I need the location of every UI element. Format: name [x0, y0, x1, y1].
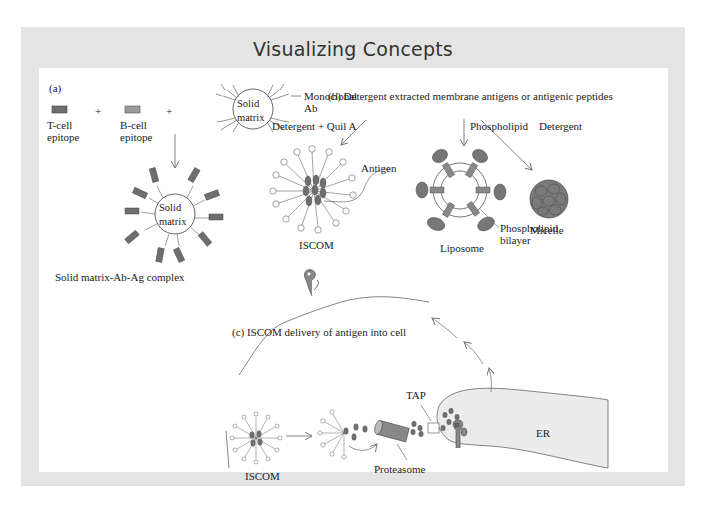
label-line: Solid	[237, 97, 264, 111]
complex-matrix-label: Solid matrix	[159, 201, 186, 229]
mhc-surface-icon	[304, 270, 318, 296]
label-line: Ab	[304, 102, 357, 114]
iscom-icon	[270, 146, 356, 233]
label-line: T-cell	[47, 119, 79, 131]
solid-matrix-label: Solid matrix	[237, 97, 264, 125]
micelle-icon	[530, 180, 568, 218]
iscom-label: ISCOM	[299, 239, 334, 251]
b-cell-epitope-label: B-cell epitope	[120, 119, 152, 143]
label-line: Solid	[159, 201, 186, 215]
plus-sign: +	[166, 105, 172, 117]
label-line: epitope	[120, 131, 152, 143]
antigen-label: Antigen	[361, 162, 396, 174]
detergent-arrow-label: Detergent	[539, 120, 582, 132]
iscom-small-icon	[230, 412, 282, 464]
figure-panel: (a) T-cell epitope + B-cell epitope + So…	[39, 68, 668, 472]
plus-sign: +	[95, 105, 101, 117]
tap-label: TAP	[406, 389, 426, 401]
panel-b-label: (b) Detergent extracted membrane antigen…	[328, 90, 613, 102]
liposome-icon	[416, 147, 506, 234]
label-line: epitope	[47, 131, 79, 143]
proteasome-label: Proteasome	[374, 463, 425, 475]
b-cell-epitope-icon	[125, 106, 140, 113]
figure-title: Visualizing Concepts	[21, 38, 685, 60]
detergent-quil-a-label: Detergent + Quil A	[272, 120, 357, 132]
fusing-iscom-icon	[318, 410, 368, 459]
panel-c-label: (c) ISCOM delivery of antigen into cell	[232, 326, 406, 338]
tap-transporter-icon	[428, 423, 439, 433]
micelle-label: Micelle	[530, 224, 564, 236]
t-cell-epitope-icon	[52, 106, 67, 113]
iscom-c-label: ISCOM	[245, 470, 280, 482]
er-label: ER	[536, 427, 550, 439]
figure-frame: Visualizing Concepts	[21, 27, 685, 486]
label-line: B-cell	[120, 119, 152, 131]
panel-a-label: (a)	[49, 82, 61, 94]
label-line: matrix	[237, 111, 264, 125]
peptides-icon	[411, 421, 424, 437]
t-cell-epitope-label: T-cell epitope	[47, 119, 79, 143]
liposome-label: Liposome	[440, 242, 484, 254]
complex-label: Solid matrix-Ab-Ag complex	[55, 271, 185, 283]
phospholipid-arrow-label: Phospholipid	[470, 120, 528, 132]
proteasome-icon	[373, 420, 409, 442]
label-line: matrix	[159, 215, 186, 229]
